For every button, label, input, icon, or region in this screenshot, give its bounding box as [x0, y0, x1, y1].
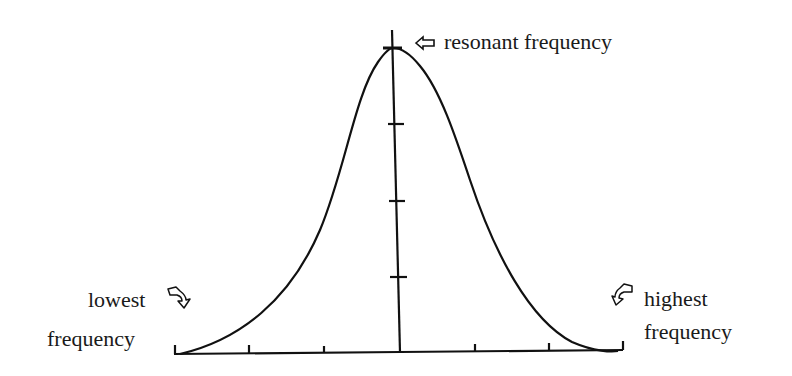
highest-label-line1: highest — [644, 286, 708, 312]
y-axis — [383, 30, 407, 352]
lowest-arrow-icon — [168, 287, 190, 308]
x-axis — [174, 341, 623, 354]
lowest-label-line1: lowest — [88, 287, 145, 313]
lowest-label-line2: frequency — [47, 326, 135, 352]
resonant-arrow-icon — [416, 37, 434, 49]
highest-arrow-icon — [612, 284, 632, 305]
highest-label-line2: frequency — [644, 319, 732, 345]
resonant-frequency-label: resonant frequency — [444, 29, 612, 55]
